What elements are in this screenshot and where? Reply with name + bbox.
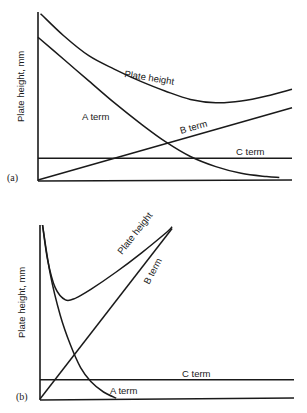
panel-a-b-term-line — [38, 108, 292, 180]
panel-b-label: (b) — [16, 391, 28, 403]
figure: Plate height A term B term C term Plate … — [0, 0, 307, 413]
panel-a-label: (a) — [7, 172, 18, 184]
panel-b-a-term-curve — [43, 225, 117, 398]
panel-b-a-term-label: A term — [110, 385, 138, 396]
panel-a-a-term-label: A term — [82, 111, 110, 122]
panel-a-c-term-label: C term — [236, 146, 265, 157]
panel-b-b-term-label: B term — [141, 256, 164, 286]
panel-b-y-axis-label: Plate height, mm — [16, 267, 27, 338]
panel-a-plate-height-label: Plate height — [124, 68, 176, 87]
panel-a-x-axis — [38, 180, 292, 181]
panel-b-c-term-label: C term — [182, 368, 211, 379]
panel-b: Plate height B term A term C term Plate … — [16, 210, 294, 403]
panel-b-plate-height-label: Plate height — [115, 210, 155, 257]
panel-b-x-axis — [40, 398, 294, 400]
panel-a-y-axis-label: Plate height, mm — [15, 51, 26, 122]
panel-a-plate-height-curve — [41, 14, 292, 103]
panel-a: Plate height A term B term C term Plate … — [7, 12, 292, 184]
